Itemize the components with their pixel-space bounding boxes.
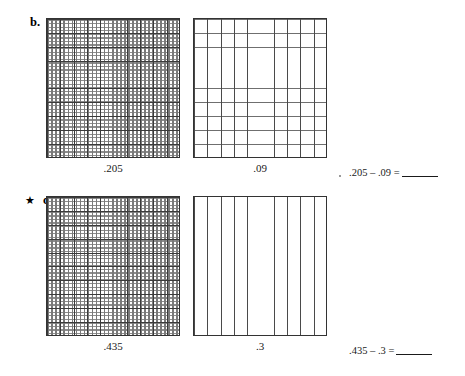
worksheet-page: b. .205 .09 .205 – .09 = ★ c. .435 .3 .4… [0, 0, 465, 376]
problem-row-b: b. .205 .09 .205 – .09 = [0, 0, 465, 188]
grid-205 [46, 18, 180, 158]
grid-caption-09: .09 [193, 163, 327, 174]
equation-c: .435 – .3 = [349, 346, 432, 357]
grid-3 [193, 196, 327, 336]
paper-speck [339, 175, 341, 177]
equation-c-text: .435 – .3 = [349, 345, 394, 356]
equation-c-answer-blank[interactable] [396, 354, 432, 355]
starred-problem-icon: ★ [25, 195, 35, 206]
problem-label-b: b. [30, 16, 40, 29]
grid-caption-205: .205 [46, 163, 180, 174]
equation-b: .205 – .09 = [349, 168, 438, 179]
grid-09 [193, 18, 327, 158]
problem-row-c: ★ c. .435 .3 .435 – .3 = [0, 178, 465, 376]
equation-b-answer-blank[interactable] [402, 176, 438, 177]
grid-caption-435: .435 [46, 341, 180, 352]
grid-caption-3: .3 [193, 341, 327, 352]
grid-435 [46, 196, 180, 336]
equation-b-text: .205 – .09 = [349, 167, 400, 178]
